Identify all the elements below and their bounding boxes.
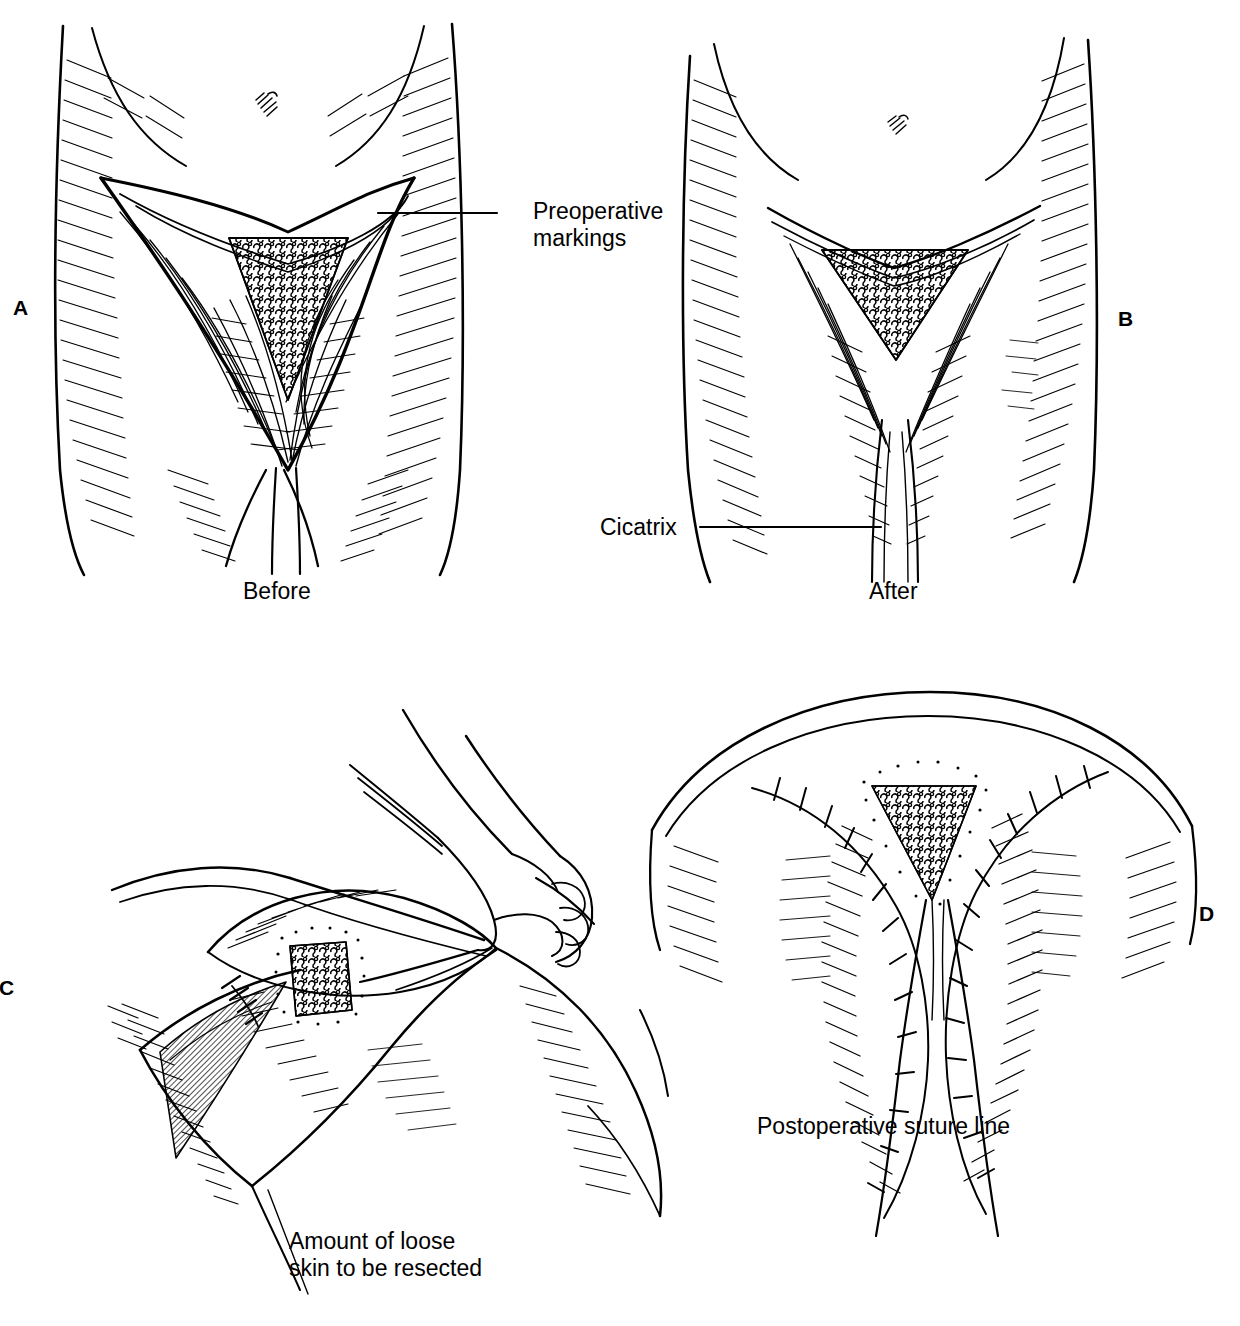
panel-letter-a: A bbox=[13, 297, 28, 318]
panel-letter-c: C bbox=[0, 977, 14, 998]
hatching-c-flap bbox=[228, 890, 396, 948]
caption-postoperative-suture-line: Postoperative suture line bbox=[757, 1113, 1010, 1140]
caption-after: After bbox=[869, 578, 918, 605]
umbilicus-a bbox=[256, 92, 277, 116]
panel-d-artwork bbox=[650, 692, 1196, 1236]
medical-figure: Preoperative markings Cicatrix Before Af… bbox=[0, 0, 1240, 1326]
shading-a-outer-right bbox=[379, 58, 456, 534]
shading-a-outer-left bbox=[58, 60, 134, 536]
label-preoperative-markings: Preoperative markings bbox=[533, 198, 663, 252]
umbilicus-b bbox=[888, 115, 908, 134]
leader-lines bbox=[378, 213, 881, 527]
panel-b-artwork bbox=[683, 38, 1097, 582]
caption-before: Before bbox=[243, 578, 311, 605]
label-cicatrix: Cicatrix bbox=[600, 514, 677, 541]
panel-c-artwork bbox=[108, 710, 668, 1294]
panel-letter-b: B bbox=[1118, 308, 1133, 329]
caption-loose-skin: Amount of loose skin to be resected bbox=[289, 1228, 482, 1282]
panel-letter-d: D bbox=[1199, 903, 1214, 924]
panel-a-artwork bbox=[55, 24, 463, 575]
